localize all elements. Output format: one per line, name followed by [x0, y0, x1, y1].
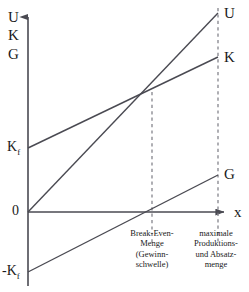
y-tick-kf-subscript: f	[17, 147, 20, 157]
cost-line-k	[28, 57, 218, 148]
series-label-g: G	[224, 167, 235, 182]
x-axis-title: x	[234, 205, 242, 220]
break-even-caption: Break-Even- Menge (Gewinn- schwelle)	[112, 228, 192, 269]
y-tick-label-neg-kf: -Kf	[2, 264, 20, 281]
y-tick-label-kf: Kf	[7, 140, 20, 157]
y-axis-title-k: K	[8, 26, 19, 44]
y-tick-kf-main: K	[7, 139, 17, 154]
max-capacity-caption: maximale Produktions- und Absatz- menge	[184, 228, 248, 269]
y-axis-title-group: U K G	[8, 8, 19, 63]
break-even-chart: U K G x 0 Kf -Kf U K G Break-Even- Menge…	[0, 0, 249, 292]
y-tick-neg-kf-main: -K	[2, 263, 17, 278]
y-tick-neg-kf-subscript: f	[17, 271, 20, 281]
origin-label: 0	[12, 204, 19, 218]
series-label-k: K	[224, 50, 235, 65]
y-axis-title-u: U	[8, 8, 19, 26]
y-axis-title-g: G	[8, 45, 19, 63]
series-label-u: U	[224, 6, 235, 21]
revenue-line-u	[28, 13, 218, 212]
